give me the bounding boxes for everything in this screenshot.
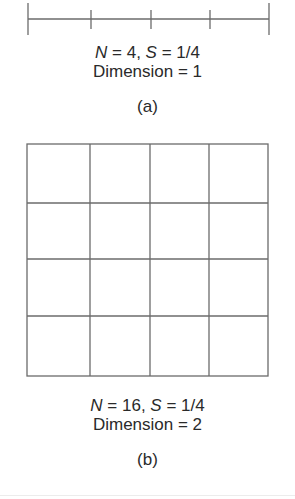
grid-b	[27, 144, 268, 376]
caption-b-params: N = 16, S = 1/4	[0, 397, 295, 415]
label-b: (b)	[0, 451, 295, 469]
label-a: (a)	[0, 98, 295, 116]
n-value: = 4,	[107, 43, 145, 62]
segmented-line-a	[28, 3, 269, 35]
s-variable: S	[146, 43, 157, 62]
s-value: = 1/4	[162, 396, 205, 415]
s-value: = 1/4	[157, 43, 200, 62]
n-variable: N	[95, 43, 107, 62]
caption-b-dimension: Dimension = 2	[0, 416, 295, 434]
s-variable: S	[150, 396, 161, 415]
page-bottom-edge	[0, 495, 295, 496]
n-value: = 16,	[103, 396, 151, 415]
caption-a-dimension: Dimension = 1	[0, 63, 295, 81]
n-variable: N	[90, 396, 102, 415]
caption-a-params: N = 4, S = 1/4	[0, 44, 295, 62]
